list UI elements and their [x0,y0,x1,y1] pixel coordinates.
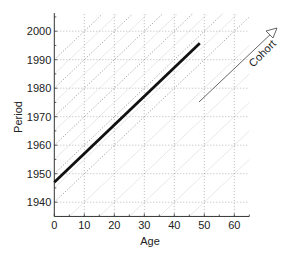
cohort-guide [54,14,162,117]
axes [54,13,249,216]
age-period-cohort-chart: 0102030405060194019501960197019801990200… [0,0,291,255]
y-tick-label: 1950 [27,168,51,180]
y-tick-label: 1990 [27,54,51,66]
cohort-arrow-line [199,31,274,102]
cohort-guide [54,17,249,202]
x-tick-label: 60 [228,219,240,231]
faint-cohort-guide [129,102,249,216]
y-tick-label: 1940 [27,196,51,208]
faint-cohort-guide [54,14,237,188]
faint-cohort-guide [54,14,207,159]
faint-cohort-guide [54,14,117,74]
faint-cohort-guide [54,14,147,102]
x-tick-label: 30 [138,219,150,231]
x-axis-label: Age [140,235,160,247]
y-tick-label: 1970 [27,111,51,123]
y-tick-label: 1960 [27,139,51,151]
x-tick-label: 0 [51,219,57,231]
x-tick-label: 10 [78,219,90,231]
cohort-guide [54,14,222,174]
cohort-guide [54,14,192,145]
cohort-guide [54,14,132,88]
faint-cohort-guide [69,45,249,216]
x-tick-label: 20 [108,219,120,231]
x-tick-label: 40 [168,219,180,231]
faint-cohort-guide [54,14,177,131]
y-axis-label: Period [12,101,24,133]
faint-cohort-guide [189,159,249,216]
y-tick-label: 2000 [27,25,51,37]
cohort-guide [54,14,102,60]
x-tick-label: 50 [198,219,210,231]
y-tick-label: 1980 [27,82,51,94]
